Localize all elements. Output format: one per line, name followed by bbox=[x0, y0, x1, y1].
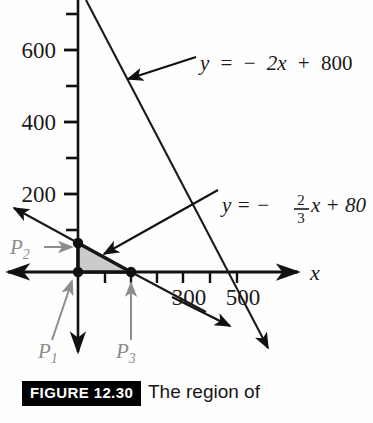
figure-container: 600 400 200 300 500 x y = − 2x + 800 y =… bbox=[0, 0, 373, 423]
equation-line1: y = − 2x + 800 bbox=[198, 51, 352, 75]
eq1-equals: = bbox=[221, 51, 233, 75]
eq1-y: y bbox=[198, 51, 210, 75]
point-label-p2: P2 bbox=[9, 235, 30, 262]
point-label-p3: P3 bbox=[115, 339, 136, 366]
x-tick-label-300: 300 bbox=[172, 285, 207, 310]
y-tick-label-200: 200 bbox=[22, 182, 57, 207]
y-tick-label-600: 600 bbox=[22, 38, 57, 63]
eq2-numerator: 2 bbox=[297, 192, 305, 208]
point-label-p1: P1 bbox=[37, 339, 58, 366]
eq1-plus: + bbox=[298, 51, 310, 75]
eq2-suffix: x + 80 bbox=[310, 193, 366, 217]
x-axis-label: x bbox=[309, 260, 320, 285]
eq2-prefix: y = − bbox=[220, 193, 270, 217]
p1-letter: P bbox=[37, 339, 51, 363]
figure-number-badge: FIGURE 12.30 bbox=[22, 381, 141, 406]
x-tick-label-500: 500 bbox=[226, 285, 261, 310]
figure-caption: The region of bbox=[148, 381, 260, 403]
vertex-dot-p2 bbox=[73, 238, 83, 248]
eq1-minus: − bbox=[244, 51, 256, 75]
p3-subscript: 3 bbox=[128, 351, 136, 366]
leader-arrow-line2 bbox=[104, 190, 218, 254]
vertex-dot-p3 bbox=[126, 267, 136, 277]
p2-subscript: 2 bbox=[23, 247, 30, 262]
eq1-slope-term: 2x bbox=[267, 51, 288, 75]
y-tick-label-400: 400 bbox=[22, 110, 57, 135]
plot-svg: 600 400 200 300 500 x y = − 2x + 800 y =… bbox=[0, 0, 373, 423]
p3-letter: P bbox=[115, 339, 129, 363]
x-axis bbox=[8, 272, 298, 283]
eq1-intercept: 800 bbox=[321, 51, 353, 75]
p2-letter: P bbox=[9, 235, 23, 259]
eq2-denominator: 3 bbox=[297, 210, 305, 226]
leader-arrow-line1 bbox=[128, 57, 196, 79]
p1-subscript: 1 bbox=[51, 351, 58, 366]
equation-line2: y = − 2 3 x + 80 bbox=[220, 192, 366, 226]
vertex-dot-p1 bbox=[73, 267, 83, 277]
line-y-equals-minus-two-thirds-x-plus-800-left bbox=[14, 208, 131, 272]
figure-number-text: FIGURE 12.30 bbox=[30, 384, 133, 401]
pointer-arrow-p1 bbox=[52, 281, 72, 340]
